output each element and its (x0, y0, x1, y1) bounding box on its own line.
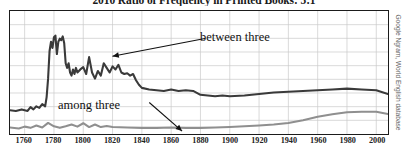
x-tick-1860: 1860 (163, 136, 179, 145)
x-tick-1800: 1800 (74, 136, 90, 145)
x-tick-1840: 1840 (133, 136, 149, 145)
x-tick-1980: 1980 (340, 136, 356, 145)
x-tick-1880: 1880 (192, 136, 208, 145)
page-title: 2010 Ratio of Frequency in Printed Books… (0, 0, 408, 6)
annotation-among-three: among three (58, 98, 120, 113)
plot-area (10, 11, 388, 134)
annotation-between-three: between three (200, 30, 270, 45)
x-axis-tick-labels: 1760178018001820184018601880190019201940… (9, 136, 389, 150)
ngram-chart-figure: 2010 Ratio of Frequency in Printed Books… (0, 0, 408, 157)
source-credit-label: Google Ngram, World English database (395, 14, 402, 130)
x-tick-1960: 1960 (310, 136, 326, 145)
x-tick-2000: 2000 (369, 136, 385, 145)
chart-frame (9, 10, 389, 135)
annotation-leader-lines (10, 11, 388, 134)
chart-title-strip: 2010 Ratio of Frequency in Printed Books… (0, 0, 408, 6)
x-tick-1940: 1940 (281, 136, 297, 145)
x-tick-1820: 1820 (104, 136, 120, 145)
x-tick-1920: 1920 (251, 136, 267, 145)
source-credit: Google Ngram, World English database (392, 10, 405, 135)
x-tick-1780: 1780 (45, 136, 61, 145)
x-tick-1900: 1900 (222, 136, 238, 145)
x-tick-1760: 1760 (16, 136, 32, 145)
